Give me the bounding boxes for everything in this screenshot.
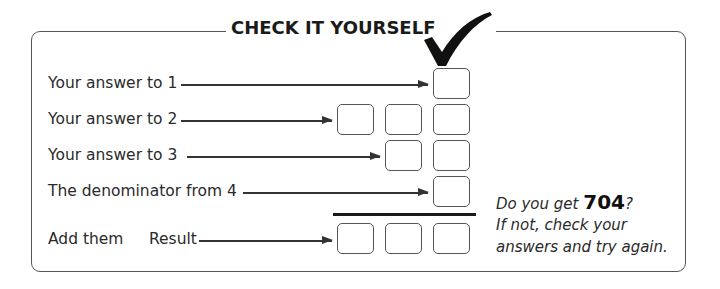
answer-1-digit-box[interactable] <box>433 68 470 99</box>
row-label-denominator-4: The denominator from 4 <box>48 182 237 200</box>
sum-rule <box>333 213 476 216</box>
arrow-icon <box>243 192 428 194</box>
result-digit-box[interactable] <box>385 223 422 254</box>
check-note-line-1: Do you get 704? <box>496 190 633 214</box>
check-note-line-3: answers and try again. <box>496 238 668 256</box>
target-value: 704 <box>583 190 625 214</box>
answer-2-digit-box[interactable] <box>385 104 422 135</box>
answer-3-digit-box[interactable] <box>433 140 470 171</box>
answer-2-digit-box[interactable] <box>433 104 470 135</box>
arrow-icon <box>181 84 428 86</box>
row-label-answer-1: Your answer to 1 <box>48 74 177 92</box>
result-digit-box[interactable] <box>433 223 470 254</box>
arrow-icon <box>199 240 332 242</box>
checkmark-icon <box>418 10 498 68</box>
answer-2-digit-box[interactable] <box>337 104 374 135</box>
arrow-icon <box>181 120 332 122</box>
page-title: CHECK IT YOURSELF <box>231 17 435 38</box>
arrow-icon <box>187 156 380 158</box>
result-label: Result <box>149 230 197 248</box>
row-label-answer-3: Your answer to 3 <box>48 146 177 164</box>
result-digit-box[interactable] <box>337 223 374 254</box>
check-note-line-2: If not, check your <box>496 216 627 234</box>
row-label-answer-2: Your answer to 2 <box>48 110 177 128</box>
answer-3-digit-box[interactable] <box>385 140 422 171</box>
denominator-4-digit-box[interactable] <box>433 176 470 207</box>
add-them-label: Add them <box>48 230 123 248</box>
